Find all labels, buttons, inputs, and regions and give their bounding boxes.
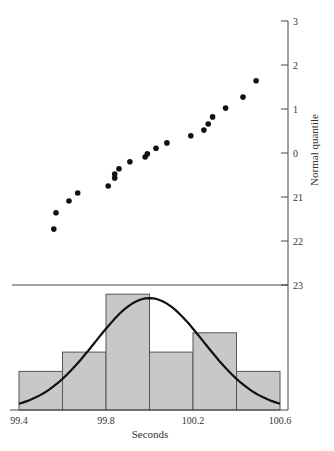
data-point bbox=[164, 140, 170, 146]
data-point bbox=[66, 198, 72, 204]
histogram-bar bbox=[106, 294, 150, 410]
data-point bbox=[205, 121, 211, 127]
x-tick-label: 99.4 bbox=[10, 415, 28, 426]
histogram-bar bbox=[150, 352, 194, 410]
data-point bbox=[75, 190, 81, 196]
normal-probability-plot-figure: 3210212223 Normal quantile 99.499.8100.2… bbox=[0, 0, 334, 451]
y-tick-label: 0 bbox=[293, 148, 298, 159]
y-tick-label: 1 bbox=[293, 104, 298, 115]
data-point bbox=[112, 171, 118, 177]
data-point bbox=[116, 166, 122, 172]
y-axis-title: Normal quantile bbox=[308, 114, 320, 186]
data-point bbox=[201, 127, 207, 133]
data-point bbox=[153, 145, 159, 151]
x-tick-label: 100.6 bbox=[269, 415, 292, 426]
x-axis-ticks: 99.499.8100.2100.6 bbox=[10, 415, 291, 426]
histogram-bars bbox=[19, 294, 280, 410]
x-tick-label: 100.2 bbox=[182, 415, 205, 426]
data-point bbox=[51, 226, 57, 232]
scatter-points bbox=[51, 78, 259, 232]
data-point bbox=[240, 94, 246, 100]
data-point bbox=[188, 133, 194, 139]
data-point bbox=[127, 159, 133, 165]
data-point bbox=[210, 114, 216, 120]
quantile-axis: 3210212223 bbox=[281, 16, 303, 410]
x-tick-label: 99.8 bbox=[97, 415, 115, 426]
y-tick-label: 22 bbox=[293, 236, 303, 247]
x-axis-title: Seconds bbox=[132, 428, 169, 440]
y-tick-label: 21 bbox=[293, 192, 303, 203]
data-point bbox=[145, 151, 151, 157]
y-tick-label: 3 bbox=[293, 16, 298, 27]
histogram-bar bbox=[63, 352, 107, 410]
data-point bbox=[253, 78, 259, 84]
histogram-bar bbox=[237, 371, 281, 410]
y-tick-label: 23 bbox=[293, 280, 303, 291]
y-tick-label: 2 bbox=[293, 60, 298, 71]
data-point bbox=[53, 210, 59, 216]
data-point bbox=[223, 105, 229, 111]
data-point bbox=[105, 183, 111, 189]
histogram-bar bbox=[19, 371, 63, 410]
